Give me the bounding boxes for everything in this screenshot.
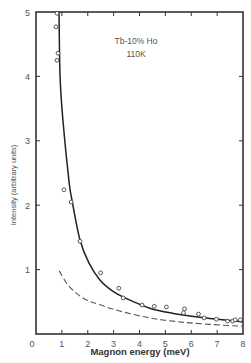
data-point [165, 305, 169, 309]
y-tick-label: 2 [25, 201, 30, 211]
x-tick-label: 1 [59, 339, 64, 349]
x-tick-label: 0 [29, 339, 34, 349]
data-point [121, 296, 125, 300]
solid-curve [59, 12, 243, 322]
data-point [62, 188, 66, 192]
data-point [197, 312, 201, 316]
annotation-sample: Tb-10% Ho [115, 36, 158, 46]
data-point [55, 11, 59, 15]
y-tick-label: 3 [25, 136, 30, 146]
x-tick-label: 8 [240, 339, 245, 349]
plot-frame [36, 12, 243, 334]
y-axis-title: Intensity (arbitrary units) [9, 144, 18, 225]
fit-curves [59, 12, 243, 326]
y-tick-label: 4 [25, 72, 30, 82]
data-point [202, 316, 206, 320]
data-point [182, 311, 186, 315]
x-tick-label: 7 [215, 339, 220, 349]
chart: 012345678 12345 Magnon energy (meV) Inte… [0, 0, 251, 363]
data-point [239, 318, 243, 322]
data-point [226, 319, 230, 323]
data-point [140, 303, 144, 307]
data-point [54, 25, 58, 29]
plot-border [36, 12, 243, 334]
data-point [233, 318, 237, 322]
data-point [69, 200, 73, 204]
data-point [117, 286, 121, 290]
y-tick-label: 5 [25, 8, 30, 18]
data-point [99, 271, 103, 275]
x-axis: 012345678 [29, 12, 245, 349]
data-points [54, 11, 242, 323]
data-point [152, 304, 156, 308]
x-axis-title: Magnon energy (meV) [90, 346, 189, 357]
data-point [214, 317, 218, 321]
data-point [78, 239, 82, 243]
annotation-temperature: 110K [126, 49, 146, 59]
y-axis: 12345 [25, 8, 243, 276]
data-point [55, 58, 59, 62]
data-point [183, 307, 187, 311]
y-tick-label: 1 [25, 265, 30, 275]
data-point [56, 51, 60, 55]
